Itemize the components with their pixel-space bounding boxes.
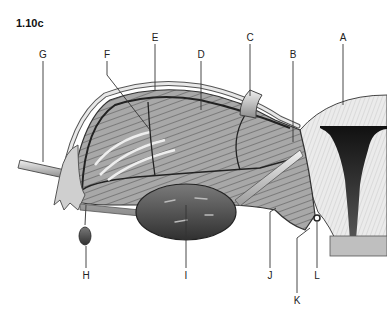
label-a: A <box>340 33 347 43</box>
label-e: E <box>152 33 159 43</box>
anatomy-illustration <box>0 0 387 320</box>
ureter <box>314 215 320 221</box>
label-c: C <box>246 33 253 43</box>
label-f: F <box>104 50 110 60</box>
fimbriae <box>18 145 85 210</box>
label-b: B <box>290 50 297 60</box>
label-g: G <box>39 50 47 60</box>
label-d: D <box>197 50 204 60</box>
label-k: K <box>294 296 301 306</box>
vesicular-appendage <box>79 227 91 245</box>
label-j: J <box>268 271 273 281</box>
label-i: I <box>185 271 188 281</box>
label-h: H <box>82 271 89 281</box>
uterus <box>300 95 387 256</box>
label-l: L <box>314 271 320 281</box>
